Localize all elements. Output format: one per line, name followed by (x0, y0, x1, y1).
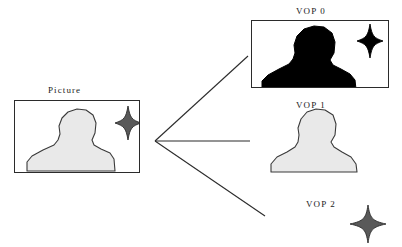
diagram-canvas: Picture VOP 0 VOP 1 VOP 2 (0, 0, 402, 247)
connector-to-vop0 (155, 56, 248, 141)
vop1-label: VOP 1 (296, 101, 326, 110)
picture-frame (14, 100, 140, 173)
connector-to-vop2 (155, 141, 265, 216)
vop2-label: VOP 2 (306, 200, 336, 209)
vop1-contents (266, 106, 364, 176)
star-shape (350, 205, 386, 243)
person-silhouette (271, 109, 357, 172)
star-shape (115, 106, 140, 140)
person-silhouette (262, 26, 356, 88)
vop0-frame (251, 20, 389, 88)
vop0-label: VOP 0 (296, 7, 326, 16)
person-silhouette (27, 109, 115, 171)
vop2-contents (348, 203, 388, 245)
vop0-contents (252, 21, 389, 88)
picture-label: Picture (48, 86, 81, 95)
star-shape (357, 24, 383, 58)
picture-contents (15, 101, 140, 173)
